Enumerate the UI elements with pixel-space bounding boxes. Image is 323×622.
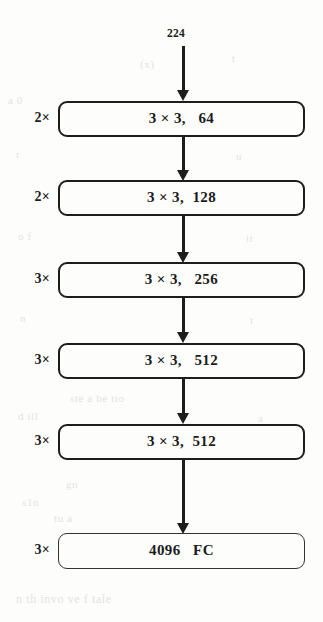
bleed-text: n th invo ve f tale xyxy=(16,592,112,607)
repeat-multiplier-2: 2× xyxy=(10,189,50,205)
bleed-text: ste a be tio xyxy=(70,392,125,404)
conv-block-4-label: 3 × 3, 512 xyxy=(145,352,218,369)
flow-arrow-1-2 xyxy=(177,137,190,181)
flow-arrow-input xyxy=(177,46,190,101)
flow-arrow-3-4 xyxy=(177,297,190,343)
bleed-text: t xyxy=(232,52,236,64)
flow-arrow-5-fc xyxy=(177,459,190,534)
bleed-text: a 0 xyxy=(8,94,23,106)
repeat-multiplier-1: 2× xyxy=(10,110,50,126)
flow-arrow-4-5 xyxy=(177,378,190,424)
repeat-multiplier-5: 3× xyxy=(10,433,50,449)
conv-block-5[interactable]: 3 × 3, 512 xyxy=(58,424,305,460)
repeat-multiplier-4: 3× xyxy=(10,352,50,368)
fc-block[interactable]: 4096 FC xyxy=(58,533,305,569)
conv-block-5-label: 3 × 3, 512 xyxy=(147,433,216,450)
conv-block-1-label: 3 × 3, 64 xyxy=(149,110,214,127)
bleed-text: n xyxy=(20,312,26,324)
bleed-text: s1n xyxy=(22,496,39,508)
bleed-text: (x) xyxy=(140,58,155,70)
bleed-text: d ill xyxy=(18,410,38,422)
conv-block-1[interactable]: 3 × 3, 64 xyxy=(58,101,305,137)
bleed-text: r xyxy=(16,148,20,160)
bleed-text: gn xyxy=(66,478,78,490)
repeat-multiplier-6: 3× xyxy=(10,542,50,558)
bleed-text: o f xyxy=(18,230,32,242)
repeat-multiplier-3: 3× xyxy=(10,271,50,287)
bleed-text: tu a xyxy=(54,512,73,524)
input-size-label: 224 xyxy=(167,27,185,39)
bleed-text: it xyxy=(246,232,253,244)
conv-block-3[interactable]: 3 × 3, 256 xyxy=(58,262,305,298)
conv-block-2[interactable]: 3 × 3, 128 xyxy=(58,180,305,216)
bleed-text: u xyxy=(236,150,242,162)
conv-block-3-label: 3 × 3, 256 xyxy=(145,271,218,288)
flow-arrow-2-3 xyxy=(177,216,190,263)
conv-block-2-label: 3 × 3, 128 xyxy=(147,189,216,206)
conv-block-4[interactable]: 3 × 3, 512 xyxy=(58,343,305,379)
bleed-text: a xyxy=(258,412,263,424)
bleed-text: t xyxy=(250,314,254,326)
fc-block-label: 4096 FC xyxy=(149,542,214,559)
figure-canvas: a 0 (x) t r u o f it n t ste a be tio d … xyxy=(0,0,323,622)
